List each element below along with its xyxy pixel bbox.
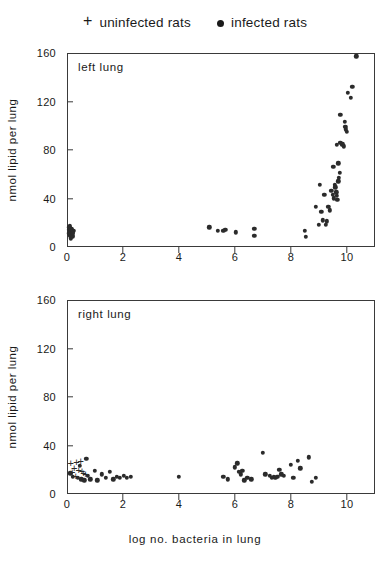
- dot-marker-icon: [217, 20, 224, 27]
- data-point-infected: [82, 478, 86, 482]
- data-point-uninfected: +: [79, 465, 85, 476]
- data-point-infected: [342, 144, 346, 148]
- data-point-infected: [343, 125, 347, 129]
- data-point-infected: [115, 475, 119, 479]
- data-point-uninfected: +: [75, 464, 81, 475]
- data-point-infected: [322, 192, 326, 196]
- data-point-infected: [332, 183, 336, 187]
- data-point-infected: [71, 230, 75, 234]
- data-point-infected: [223, 228, 227, 232]
- data-point-infected: [108, 470, 112, 474]
- legend-label-infected: infected rats: [231, 15, 307, 30]
- data-point-infected: [95, 478, 99, 482]
- data-point-infected: [291, 476, 295, 480]
- data-point-infected: [67, 234, 71, 238]
- x-axis-title: log no. bacteria in lung: [0, 533, 390, 545]
- data-point-infected: [277, 467, 281, 471]
- data-point-infected: [92, 469, 96, 473]
- data-point-infected: [85, 473, 89, 477]
- data-point-infected: [337, 175, 341, 179]
- panel-title-right-lung: right lung: [78, 308, 131, 320]
- data-point-infected: [69, 236, 73, 240]
- data-point-infected: [342, 120, 346, 124]
- data-point-infected: [332, 196, 336, 200]
- data-point-infected: [207, 225, 211, 229]
- data-point-infected: [68, 232, 72, 236]
- x-tick-mark: [346, 494, 347, 500]
- y-tick-mark: [67, 149, 73, 150]
- x-tick-mark: [178, 247, 179, 253]
- data-point-infected: [216, 229, 220, 233]
- data-point-infected: [79, 477, 83, 481]
- data-point-infected: [88, 477, 92, 481]
- data-point-infected: [232, 465, 236, 469]
- chart-legend: + uninfected rats infected rats: [0, 14, 390, 30]
- data-point-infected: [84, 456, 88, 460]
- data-point-infected: [67, 224, 71, 228]
- data-point-infected: [71, 475, 75, 479]
- data-point-infected: [70, 235, 74, 239]
- data-point-infected: [70, 234, 74, 238]
- data-point-uninfected: +: [73, 470, 79, 481]
- x-tick-label: 0: [64, 498, 70, 510]
- y-tick-label: 40: [43, 440, 56, 452]
- data-point-infected: [307, 455, 311, 459]
- data-point-infected: [329, 189, 333, 193]
- data-point-infected: [68, 229, 72, 233]
- data-point-infected: [331, 165, 335, 169]
- data-point-infected: [70, 232, 74, 236]
- data-point-infected: [104, 476, 108, 480]
- y-tick-mark: [67, 396, 73, 397]
- chart-panel-left-lung: nmol lipid per lung 04080120160 left lun…: [0, 45, 390, 275]
- data-point-infected: [221, 475, 225, 479]
- data-point-infected: [71, 229, 75, 233]
- y-axis-ticklabels-top: 04080120160: [0, 53, 67, 247]
- data-point-infected: [354, 54, 358, 58]
- data-point-infected: [245, 476, 249, 480]
- data-point-infected: [273, 476, 277, 480]
- data-point-infected: [326, 205, 330, 209]
- data-point-infected: [336, 179, 340, 183]
- x-tick-label: 0: [64, 251, 70, 263]
- data-point-infected: [111, 477, 115, 481]
- data-point-infected: [288, 462, 292, 466]
- data-point-infected: [309, 479, 313, 483]
- y-tick-mark: [67, 198, 73, 199]
- chart-panel-right-lung: nmol lipid per lung 04080120160 right lu…: [0, 292, 390, 522]
- y-tick-label: 40: [43, 193, 56, 205]
- plus-marker-icon: +: [83, 13, 93, 29]
- data-point-infected: [234, 230, 238, 234]
- y-tick-mark: [67, 101, 73, 102]
- y-tick-label: 120: [37, 343, 56, 355]
- data-point-infected: [325, 219, 329, 223]
- data-point-infected: [260, 450, 264, 454]
- data-point-infected: [118, 476, 122, 480]
- data-point-infected: [67, 225, 71, 229]
- data-point-uninfected: +: [80, 468, 86, 479]
- data-point-infected: [125, 476, 129, 480]
- data-point-infected: [69, 228, 73, 232]
- data-point-infected: [344, 129, 348, 133]
- legend-label-uninfected: uninfected rats: [99, 15, 191, 30]
- data-point-infected: [338, 112, 342, 116]
- data-point-infected: [242, 478, 246, 482]
- data-point-infected: [298, 466, 302, 470]
- data-point-infected: [295, 459, 299, 463]
- data-point-infected: [350, 85, 354, 89]
- data-point-infected: [314, 205, 318, 209]
- data-point-infected: [267, 473, 271, 477]
- data-point-infected: [237, 470, 241, 474]
- data-point-infected: [344, 127, 348, 131]
- plot-area-right-lung: right lung ++++++++++: [67, 300, 375, 494]
- data-point-infected: [225, 477, 229, 481]
- data-point-infected: [240, 469, 244, 473]
- y-tick-mark: [67, 348, 73, 349]
- legend-entry-infected: infected rats: [217, 15, 307, 30]
- data-point-infected: [99, 472, 103, 476]
- data-point-infected: [304, 235, 308, 239]
- data-point-infected: [69, 226, 73, 230]
- data-point-infected: [272, 475, 276, 479]
- data-point-uninfected: +: [68, 458, 74, 469]
- data-point-infected: [68, 471, 72, 475]
- data-point-infected: [335, 143, 339, 147]
